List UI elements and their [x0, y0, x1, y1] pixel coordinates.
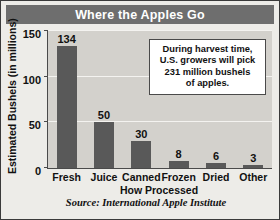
y-tick-label-100: 100 [23, 80, 41, 81]
bar-value-dried: 6 [213, 150, 219, 162]
bar-fresh [57, 46, 77, 168]
annotation-line-4: of apples. [153, 78, 262, 89]
x-tick-label-frozen: Frozen [161, 171, 195, 183]
x-tick-label-fresh: Fresh [52, 171, 81, 183]
bar-value-canned: 30 [135, 128, 147, 140]
bar-value-juice: 50 [98, 109, 110, 121]
x-axis-title: How Processed [47, 184, 271, 196]
source-caption: Source: International Apple Institute [21, 197, 271, 208]
chart-title-bar: Where the Apples Go [6, 5, 274, 24]
bar-frozen [169, 161, 189, 168]
bar-slot-fresh: 134 Fresh [48, 31, 85, 168]
bar-other [243, 165, 263, 168]
bar-canned [131, 141, 151, 168]
page-title: Where the Apples Go [75, 8, 205, 22]
y-tick-label-0: 0 [35, 171, 41, 172]
bar-value-fresh: 134 [57, 33, 75, 45]
bar-slot-juice: 50 Juice [85, 31, 122, 168]
y-axis-title: Estimated Bushels (in millions) [6, 24, 18, 174]
bar-value-frozen: 8 [176, 148, 182, 160]
x-tick-label-canned: Canned [122, 171, 161, 183]
bar-juice [94, 122, 114, 168]
x-tick-label-dried: Dried [203, 171, 230, 183]
annotation-line-1: During harvest time, [153, 44, 262, 55]
y-tick-label-150: 150 [23, 34, 41, 35]
y-tick-label-50: 50 [29, 125, 41, 126]
x-tick-label-other: Other [239, 171, 267, 183]
annotation-line-2: U.S. growers will pick [153, 55, 262, 66]
x-tick-label-juice: Juice [91, 171, 118, 183]
annotation-callout: During harvest time, U.S. growers will p… [149, 39, 266, 95]
annotation-line-3: 231 million bushels [153, 67, 262, 78]
bar-value-other: 3 [250, 152, 256, 164]
bar-dried [206, 163, 226, 169]
chart-figure: Where the Apples Go Estimated Bushels (i… [0, 0, 280, 220]
